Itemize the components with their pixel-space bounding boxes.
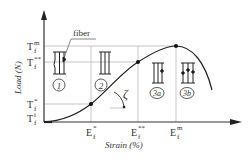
curve-points [89,44,178,106]
stage-1-marker: 1 [53,79,65,91]
stage-3a-fiber-icon [152,63,164,83]
axes [41,10,242,125]
svg-text:f: f [93,133,96,141]
svg-text:*: * [34,97,38,105]
svg-text:*: * [93,124,97,132]
y-tick-Tm: T f m [27,39,40,55]
load-curve [44,46,212,122]
y-tick-Tss: T f ** [27,55,42,71]
svg-text:m: m [34,39,40,47]
svg-text:E: E [86,127,92,138]
fiber-label: fiber [73,28,90,38]
y-tick-Ti: T f i [27,111,37,127]
svg-text:T: T [27,113,33,124]
svg-text:E: E [170,127,176,138]
x-axis-arrow-icon [230,119,242,125]
svg-text:**: ** [34,55,42,63]
x-tick-Es: E f * [86,124,97,141]
stage-1-fiber-icon [53,52,66,74]
angle-label: ζ [123,87,129,101]
svg-text:**: ** [138,124,146,132]
x-tick-Ess: E f ** [131,124,146,141]
stage-3b-fiber-icon [181,63,195,83]
svg-text:E: E [131,127,137,138]
svg-text:T: T [27,41,33,52]
svg-text:f: f [34,63,37,71]
y-tick-labels: T f m T f ** T f * T f i [27,39,42,127]
y-axis-arrow-icon [41,10,47,20]
y-tick-Ts: T f * [27,97,38,113]
stage-2-marker: 2 [95,79,107,91]
stage-3b-marker: 3b [180,88,194,99]
stage-3a-marker: 3a [150,88,164,99]
svg-text:T: T [27,57,33,68]
svg-text:f: f [34,47,37,55]
svg-text:1: 1 [57,81,62,91]
svg-text:T: T [27,99,33,110]
y-axis-title: Load (N) [13,61,23,95]
x-tick-Em: E f m [170,124,183,141]
stage-2-fiber-icon [99,52,111,74]
svg-text:2: 2 [99,81,104,91]
svg-text:3b: 3b [182,89,191,98]
svg-text:f: f [177,133,180,141]
x-axis-title: Strain (%) [105,140,143,150]
x-tick-labels: E f * E f ** E f m [86,124,183,141]
load-strain-diagram: ζ fiber [0,0,250,160]
svg-text:i: i [34,111,36,119]
svg-text:f: f [34,119,37,127]
svg-text:m: m [177,124,183,132]
svg-text:3a: 3a [152,89,161,98]
